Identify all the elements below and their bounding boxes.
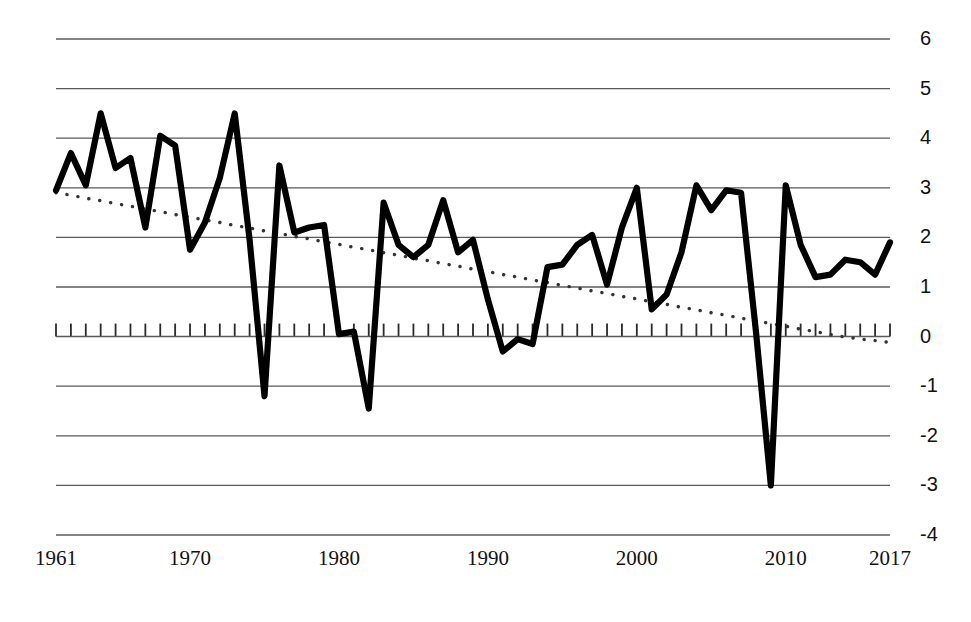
y-axis-tick-label: 1 xyxy=(920,276,931,296)
y-axis-tick-label: 6 xyxy=(920,28,931,48)
x-axis-tick-label: 1970 xyxy=(169,548,211,569)
x-axis-tick-label: 2000 xyxy=(616,548,658,569)
gridlines-group xyxy=(56,39,890,535)
x-axis-tick-label: 1961 xyxy=(35,548,77,569)
x-axis-tick-label: 2010 xyxy=(765,548,807,569)
trend-line-series xyxy=(56,193,890,343)
y-axis-tick-label: 2 xyxy=(920,226,931,246)
y-axis-tick-label: 5 xyxy=(920,78,931,98)
x-axis-tick-label: 2017 xyxy=(869,548,911,569)
y-axis-tick-label: 3 xyxy=(920,177,931,197)
line-chart: 6543210-1-2-3-4 196119701980199020002010… xyxy=(0,0,971,622)
x-axis-tick-label: 1990 xyxy=(467,548,509,569)
y-axis-tick-label: -4 xyxy=(920,524,938,544)
chart-plot-area xyxy=(0,0,971,622)
x-axis-tick-label: 1980 xyxy=(318,548,360,569)
y-axis-tick-label: -2 xyxy=(920,425,938,445)
y-axis-tick-label: -3 xyxy=(920,474,938,494)
y-axis-tick-label: 4 xyxy=(920,127,931,147)
annual-growth-series xyxy=(56,113,890,485)
y-axis-tick-label: 0 xyxy=(920,326,931,346)
y-axis-tick-label: -1 xyxy=(920,375,938,395)
x-tick-marks-group xyxy=(56,324,890,337)
